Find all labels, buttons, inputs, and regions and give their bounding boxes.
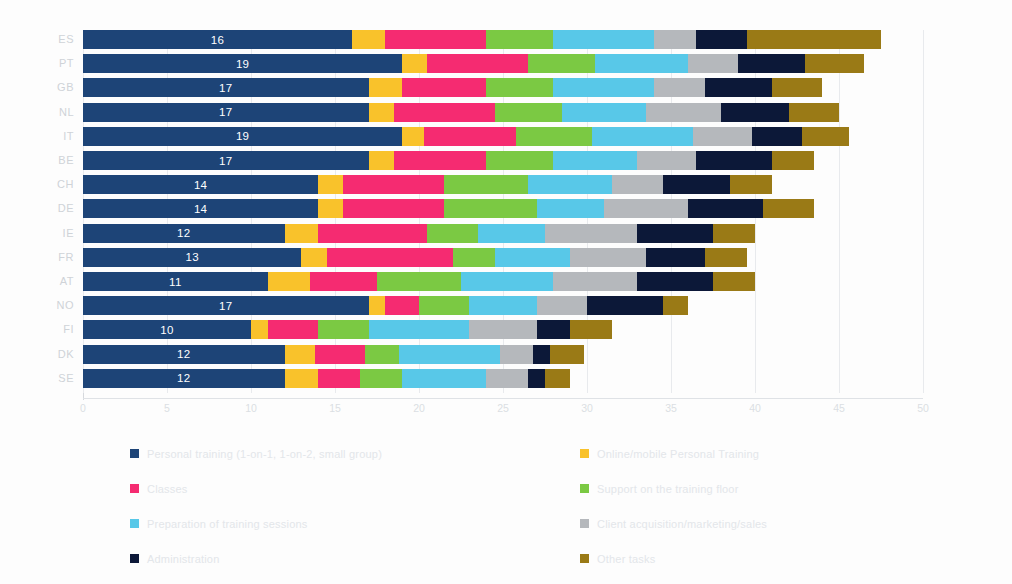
legend-item[interactable]: Preparation of training sessions [130, 506, 560, 541]
legend-label: Preparation of training sessions [147, 518, 308, 530]
bar-segment [365, 345, 399, 364]
bar-segment [654, 78, 704, 97]
bar-row-pt: 19 [83, 54, 864, 73]
bar-segment [318, 175, 343, 194]
x-axis-tick-0: 0 [80, 402, 86, 414]
bar-segment [318, 320, 368, 339]
bar-segment [360, 369, 402, 388]
y-axis-label-gb: GB [40, 78, 74, 97]
bar-row-gb: 17 [83, 78, 822, 97]
legend-item[interactable]: Online/mobile Personal Training [580, 436, 1010, 471]
bar-segment: 14 [83, 199, 318, 218]
bar-segment [394, 103, 495, 122]
legend-swatch-icon [130, 554, 139, 563]
bar-segment [285, 369, 319, 388]
bar-value-label: 17 [219, 82, 232, 94]
legend-swatch-icon [130, 449, 139, 458]
bar-segment [752, 127, 802, 146]
bar-segment [663, 175, 730, 194]
legend-label: Administration [147, 553, 220, 565]
y-axis-label-se: SE [40, 369, 74, 388]
bar-segment: 17 [83, 296, 369, 315]
bar-segment [654, 30, 696, 49]
bar-value-label: 17 [219, 155, 232, 167]
bar-segment [553, 30, 654, 49]
y-axis-label-ie: IE [40, 224, 74, 243]
legend-column-left: Personal training (1-on-1, 1-on-2, small… [130, 436, 560, 576]
bar-segment [469, 296, 536, 315]
bar-row-fr: 13 [83, 248, 747, 267]
bar-segment [402, 54, 427, 73]
bar-segment [369, 296, 386, 315]
y-axis-label-dk: DK [40, 345, 74, 364]
x-axis-tick-45: 45 [833, 402, 845, 414]
bar-segment [789, 103, 839, 122]
x-axis-tick-50: 50 [917, 402, 929, 414]
bar-segment [369, 78, 403, 97]
bar-segment: 19 [83, 54, 402, 73]
bar-segment [385, 296, 419, 315]
legend-item[interactable]: Other tasks [580, 541, 1010, 576]
y-axis-label-de: DE [40, 199, 74, 218]
bar-segment [604, 199, 688, 218]
bar-row-at: 11 [83, 272, 755, 291]
legend-swatch-icon [580, 554, 589, 563]
bar-segment [461, 272, 553, 291]
stacked-bar-chart: ESPTGBNLITBECHDEIEFRATNOFIDKSE 161917171… [0, 0, 1012, 584]
bar-value-label: 12 [177, 372, 190, 384]
legend-item[interactable]: Administration [130, 541, 560, 576]
bar-segment: 12 [83, 369, 285, 388]
y-axis-labels: ESPTGBNLITBECHDEIEFRATNOFIDKSE [36, 30, 74, 393]
bar-segment [419, 296, 469, 315]
bar-segment: 17 [83, 78, 369, 97]
bar-segment [562, 103, 646, 122]
legend-item[interactable]: Classes [130, 471, 560, 506]
bar-segment [402, 78, 486, 97]
bar-segment [528, 369, 545, 388]
bar-segment [486, 30, 553, 49]
x-axis-tick-10: 10 [245, 402, 257, 414]
bar-segment [646, 248, 705, 267]
bar-segment [315, 345, 365, 364]
gridline [839, 30, 840, 393]
bar-segment [595, 54, 687, 73]
legend-item[interactable]: Personal training (1-on-1, 1-on-2, small… [130, 436, 560, 471]
bar-segment [528, 54, 595, 73]
legend-swatch-icon [130, 519, 139, 528]
bar-segment [587, 296, 663, 315]
bar-segment [533, 345, 550, 364]
x-axis-tick-20: 20 [413, 402, 425, 414]
bar-segment [738, 54, 805, 73]
bar-segment [402, 369, 486, 388]
bar-row-de: 14 [83, 199, 814, 218]
legend-swatch-icon [580, 519, 589, 528]
legend-item[interactable]: Support on the training floor [580, 471, 1010, 506]
legend-swatch-icon [130, 484, 139, 493]
bar-segment [318, 199, 343, 218]
bar-segment [688, 199, 764, 218]
y-axis-label-at: AT [40, 272, 74, 291]
legend-item[interactable]: Client acquisition/marketing/sales [580, 506, 1010, 541]
legend-label: Personal training (1-on-1, 1-on-2, small… [147, 448, 382, 460]
bar-segment [592, 127, 693, 146]
bar-segment [637, 272, 713, 291]
bar-segment [352, 30, 386, 49]
legend-label: Support on the training floor [597, 483, 739, 495]
bar-row-nl: 17 [83, 103, 839, 122]
bar-segment [570, 320, 612, 339]
bar-segment: 19 [83, 127, 402, 146]
bar-segment [310, 272, 377, 291]
bar-value-label: 10 [160, 324, 173, 336]
bar-segment: 11 [83, 272, 268, 291]
plot-area: 161917171917141412131117101212 [83, 30, 923, 393]
x-axis-tick-40: 40 [749, 402, 761, 414]
legend-label: Classes [147, 483, 188, 495]
bar-segment [424, 127, 516, 146]
bar-segment [285, 224, 319, 243]
bar-value-label: 13 [185, 251, 198, 263]
bar-segment [516, 127, 592, 146]
x-axis-tick-35: 35 [665, 402, 677, 414]
bar-segment: 10 [83, 320, 251, 339]
bar-segment [318, 369, 360, 388]
bar-segment [377, 272, 461, 291]
